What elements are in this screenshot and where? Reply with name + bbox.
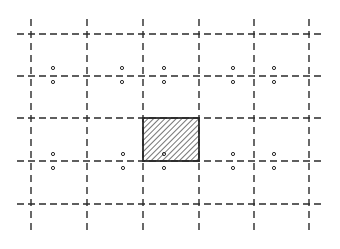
grid-diagram <box>0 0 340 249</box>
dot-marker <box>51 66 54 69</box>
dot-marker <box>272 80 275 83</box>
dot-marker <box>51 152 54 155</box>
dot-marker <box>162 166 165 169</box>
dot-marker <box>121 152 124 155</box>
dot-marker <box>162 66 165 69</box>
dot-marker <box>272 166 275 169</box>
hatched-rectangle <box>143 118 199 161</box>
dot-marker <box>231 66 234 69</box>
dot-marker <box>51 166 54 169</box>
dot-marker <box>51 80 54 83</box>
dot-marker <box>272 66 275 69</box>
dot-marker <box>231 152 234 155</box>
dot-marker <box>272 152 275 155</box>
dot-marker <box>120 80 123 83</box>
dot-marker <box>162 80 165 83</box>
dot-marker <box>121 166 124 169</box>
dot-marker <box>231 166 234 169</box>
dot-marker <box>120 66 123 69</box>
hatched-cell <box>143 118 199 161</box>
dot-marker <box>231 80 234 83</box>
